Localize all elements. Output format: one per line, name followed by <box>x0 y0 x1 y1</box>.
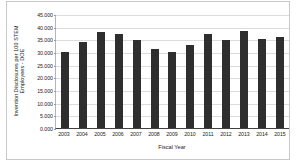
x-axis-tick-label: 2014 <box>253 131 271 137</box>
bar-slot <box>181 15 199 128</box>
bar[interactable] <box>61 52 69 128</box>
bar-slot <box>128 15 146 128</box>
y-axis-tick-mark <box>54 129 56 130</box>
y-axis-tick-label: 30.000 <box>37 50 53 56</box>
bar-slot <box>74 15 92 128</box>
y-axis-tick-label: 15.000 <box>37 88 53 94</box>
bar-slot <box>92 15 110 128</box>
x-axis-title: Fiscal Year <box>55 144 289 150</box>
bar-slot <box>199 15 217 128</box>
x-axis-tick-labels: 2003200420052006200720082009201020112012… <box>55 131 289 137</box>
x-axis-tick-label: 2012 <box>217 131 235 137</box>
x-axis-tick-label: 2006 <box>109 131 127 137</box>
y-axis-tick-label: 5.000 <box>40 113 53 119</box>
bar[interactable] <box>276 37 284 128</box>
y-axis-tick-label: 35.000 <box>37 37 53 43</box>
bar[interactable] <box>79 42 87 128</box>
x-axis-tick-label: 2013 <box>235 131 253 137</box>
x-axis-tick-label: 2009 <box>163 131 181 137</box>
y-axis-tick-label: 45.000 <box>37 12 53 18</box>
bar[interactable] <box>204 34 212 128</box>
bar[interactable] <box>133 40 141 128</box>
bar[interactable] <box>151 49 159 128</box>
bar[interactable] <box>222 40 230 128</box>
y-axis-tick-label: 0.000 <box>40 126 53 132</box>
x-axis-tick-label: 2010 <box>181 131 199 137</box>
bar-slot <box>56 15 74 128</box>
bar[interactable] <box>115 34 123 128</box>
bar-slot <box>217 15 235 128</box>
plot-area: 45.00040.00035.00030.00025.00020.00015.0… <box>55 15 289 129</box>
bar-slot <box>164 15 182 128</box>
x-axis-tick-label: 2011 <box>199 131 217 137</box>
x-axis-tick-label: 2008 <box>145 131 163 137</box>
y-axis-title-line-2: Employees - DOE <box>19 49 25 94</box>
bar-series <box>56 15 289 128</box>
x-axis-tick-label: 2004 <box>73 131 91 137</box>
bar-slot <box>253 15 271 128</box>
bar[interactable] <box>258 39 266 128</box>
y-axis-tick-label: 25.000 <box>37 63 53 69</box>
bar[interactable] <box>240 31 248 128</box>
y-axis-tick-label: 20.000 <box>37 75 53 81</box>
bar-slot <box>110 15 128 128</box>
bar[interactable] <box>97 32 105 128</box>
bar-slot <box>146 15 164 128</box>
y-axis-title: Invention Disclosures per 100 STEM Emplo… <box>7 10 31 132</box>
bar-slot <box>271 15 289 128</box>
x-axis-tick-label: 2007 <box>127 131 145 137</box>
bar[interactable] <box>186 45 194 128</box>
x-axis-tick-label: 2005 <box>91 131 109 137</box>
chart-frame: Invention Disclosures per 100 STEM Emplo… <box>6 1 290 160</box>
bar-slot <box>235 15 253 128</box>
bar[interactable] <box>168 52 176 128</box>
x-axis-tick-label: 2015 <box>271 131 289 137</box>
y-axis-tick-label: 40.000 <box>37 25 53 31</box>
x-axis-tick-label: 2003 <box>55 131 73 137</box>
gridline <box>56 129 289 130</box>
y-axis-tick-label: 10.000 <box>37 101 53 107</box>
